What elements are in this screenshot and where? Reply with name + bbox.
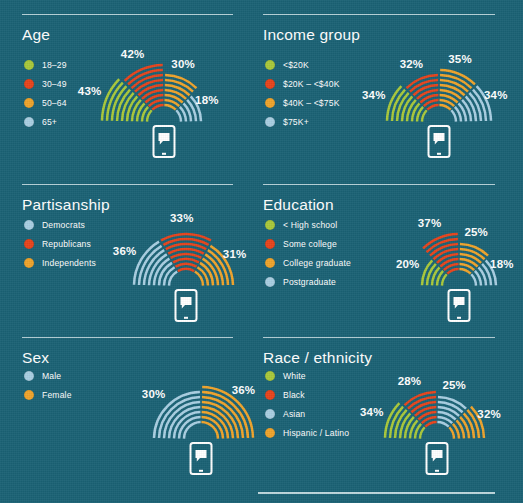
tablet-icon <box>191 443 212 474</box>
speech-bubble-icon <box>454 297 465 308</box>
percent-label: 20% <box>396 258 420 270</box>
panel-title: Partisanship <box>22 196 110 214</box>
percent-label: 32% <box>400 58 424 70</box>
fan-arc <box>176 110 181 121</box>
legend-item: Republicans <box>24 239 96 249</box>
fan-arc <box>451 110 456 121</box>
legend-color-dot <box>24 390 34 400</box>
legend-color-dot <box>24 371 34 381</box>
fan-arc <box>425 422 436 427</box>
legend-partisanship: DemocratsRepublicansIndependents <box>24 220 96 268</box>
panel-divider <box>263 184 495 185</box>
legend-color-dot <box>265 428 275 438</box>
legend-education: < High schoolSome collegeCollege graduat… <box>265 220 351 287</box>
legend-color-dot <box>265 98 275 108</box>
fan-arc <box>152 105 163 110</box>
percent-label: 18% <box>195 94 219 106</box>
percent-label: 36% <box>113 245 137 257</box>
legend-item-label: 65+ <box>42 117 57 127</box>
fan-arc <box>387 86 401 121</box>
percent-label: 28% <box>398 375 422 387</box>
legend-color-dot <box>24 258 34 268</box>
speech-bubble-icon <box>181 297 192 308</box>
legend-item: Black <box>265 390 349 400</box>
legend-item-label: $75K+ <box>283 117 309 127</box>
fan-chart-income-group: 34%32%35%34% <box>353 30 523 165</box>
legend-color-dot <box>265 277 275 287</box>
legend-sex: MaleFemale <box>24 371 72 400</box>
legend-item: Male <box>24 371 72 381</box>
speech-bubble-icon <box>434 133 445 144</box>
percent-label: 34% <box>484 89 508 101</box>
fan-arc <box>459 269 470 274</box>
fan-arc <box>201 422 218 439</box>
fan-chart-education: 20%37%25%18% <box>373 194 523 329</box>
fan-arc <box>442 274 447 285</box>
percent-label: 34% <box>362 89 386 101</box>
panel-title: Income group <box>263 26 360 44</box>
panel-divider <box>22 14 233 15</box>
percent-label: 33% <box>170 212 194 224</box>
legend-age: 18–2930–4950–6465+ <box>24 60 67 127</box>
percent-label: 36% <box>232 384 256 396</box>
speech-bubble-icon <box>196 450 207 461</box>
legend-item-label: Independents <box>42 258 96 268</box>
legend-item-label: 50–64 <box>42 98 67 108</box>
panel-income-group: Income group <$20K$20K – <$40K$40K – <$7… <box>253 0 523 170</box>
percent-label: 25% <box>442 379 466 391</box>
panel-divider <box>22 337 233 338</box>
tablet-home-button <box>457 317 461 319</box>
fan-arc <box>184 422 201 439</box>
tablet-home-button <box>162 153 166 155</box>
tablet-home-button <box>437 153 441 155</box>
panel-age: Age 18–2930–4950–6465+ 43%42%30%18% <box>0 0 253 170</box>
legend-item-label: Female <box>42 390 72 400</box>
percent-label: 37% <box>418 217 442 229</box>
legend-color-dot <box>265 220 275 230</box>
legend-item: College graduate <box>265 258 351 268</box>
fan-arc <box>440 70 475 84</box>
percent-label: 18% <box>490 258 514 270</box>
legend-color-dot <box>24 79 34 89</box>
fan-arc <box>147 110 152 121</box>
fan-segment-asian <box>437 397 466 427</box>
fan-segment-40k-75k <box>439 70 475 110</box>
fan-arc <box>439 105 450 110</box>
tablet-icon <box>429 126 450 157</box>
legend-race-ethnicity: WhiteBlackAsianHispanic / Latino <box>265 371 349 438</box>
speech-bubble-icon <box>432 450 443 461</box>
legend-item: Female <box>24 390 72 400</box>
fan-arc <box>422 110 427 121</box>
tablet-body <box>191 443 212 474</box>
legend-item: Democrats <box>24 220 96 230</box>
tablet-body <box>427 443 448 474</box>
legend-item: Postgraduate <box>265 277 351 287</box>
infographic-grid: Age 18–2930–4950–6465+ 43%42%30%18% Inco… <box>0 0 523 503</box>
tablet-icon <box>154 126 175 157</box>
bottom-divider <box>258 492 495 494</box>
tablet-body <box>429 126 450 157</box>
legend-color-dot <box>24 220 34 230</box>
panel-education: Education < High schoolSome collegeColle… <box>253 170 523 323</box>
legend-item-label: $20K – <$40K <box>283 79 340 89</box>
panel-partisanship: Partisanship DemocratsRepublicansIndepen… <box>0 170 253 323</box>
fan-arc <box>164 105 175 110</box>
legend-item: 65+ <box>24 117 67 127</box>
panel-race-ethnicity: Race / ethnicity WhiteBlackAsianHispanic… <box>253 323 523 503</box>
legend-item: 18–29 <box>24 60 67 70</box>
percent-label: 43% <box>78 85 102 97</box>
fan-arc <box>437 422 448 427</box>
fan-segment-some-college <box>423 234 459 274</box>
percent-label: 30% <box>142 388 166 400</box>
legend-color-dot <box>265 239 275 249</box>
tablet-icon <box>176 290 197 321</box>
legend-item-label: Democrats <box>42 220 85 230</box>
legend-item-label: Republicans <box>42 239 91 249</box>
fan-arc <box>447 269 458 274</box>
percent-label: 25% <box>464 226 488 238</box>
legend-color-dot <box>265 258 275 268</box>
tablet-body <box>449 290 470 321</box>
legend-color-dot <box>24 239 34 249</box>
tablet-home-button <box>435 470 439 472</box>
fan-chart-race-ethnicity: 34%28%25%32% <box>351 347 523 482</box>
